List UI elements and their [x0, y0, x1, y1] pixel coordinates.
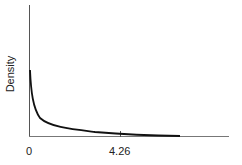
x-tick-label-0: 0 [26, 145, 32, 157]
chart-canvas [0, 0, 242, 165]
y-axis-label: Density [4, 56, 16, 93]
x-tick-label-4-26: 4.26 [109, 145, 130, 157]
density-curve [30, 70, 180, 136]
